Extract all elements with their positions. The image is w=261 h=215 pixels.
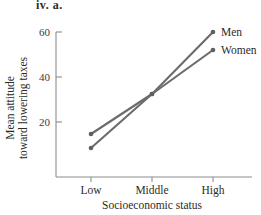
data-point-women-middle [150,92,155,97]
x-tick-label-high: High [202,184,225,197]
series-line-women [91,50,213,148]
series-line-men [91,32,213,134]
legend-label-women: Women [221,44,257,56]
data-point-women-low [89,146,94,151]
legend-label-men: Men [221,26,242,38]
x-axis-title: Socioeconomic status [102,199,202,211]
data-point-men-high [211,30,216,35]
data-point-men-low [89,132,94,137]
line-chart: 60 40 20 Low Middle High Socioeconomic s… [0,0,261,215]
y-axis-title-line1: Mean attitude [4,76,16,140]
figure-root: iv. a. 60 40 20 Low Middle High Socioeco… [0,0,261,215]
y-axis-title-line2: toward lowering taxes [17,56,30,159]
y-tick-label-60: 60 [39,26,51,38]
y-tick-label-20: 20 [39,116,51,128]
data-point-women-high [211,48,216,53]
x-tick-label-middle: Middle [135,184,168,196]
y-tick-label-40: 40 [39,71,51,83]
x-tick-label-low: Low [80,184,102,196]
